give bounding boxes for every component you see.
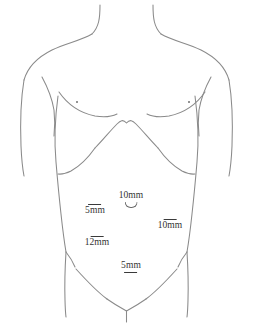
neck-line-right — [153, 5, 161, 34]
hip-line-left — [65, 252, 66, 317]
port-label-suprapubic[interactable]: 5mm — [121, 261, 141, 273]
sternum-xiphoid-line — [95, 121, 158, 148]
groin-converge-left — [107, 299, 127, 311]
port-label-suprapubic-text: 5mm — [121, 260, 141, 270]
armpit-line-right — [198, 77, 211, 136]
port-label-left-lower[interactable]: 12mm — [85, 236, 110, 248]
arm-outer-right — [229, 80, 232, 176]
shoulder-line-left — [24, 34, 92, 80]
inguinal-fold-right — [146, 269, 177, 299]
port-label-left-upper-text: 5mm — [85, 205, 105, 215]
neck-line-left — [92, 5, 100, 34]
port-marker-icon-suprapubic — [125, 272, 138, 273]
port-label-umbilical-text: 10mm — [119, 190, 144, 200]
arm-outer-left — [21, 80, 24, 176]
pectoral-fold-left — [59, 92, 117, 117]
costal-margin-left — [58, 148, 95, 174]
armpit-line-left — [42, 77, 55, 136]
port-label-right-lateral-text: 10mm — [158, 220, 183, 230]
port-label-right-lateral[interactable]: 10mm — [158, 219, 183, 231]
torso-outline-illustration — [0, 0, 253, 332]
umbilicus-icon — [125, 202, 138, 208]
port-label-left-upper[interactable]: 5mm — [85, 204, 105, 216]
groin-converge-right — [127, 299, 147, 311]
port-label-umbilical[interactable]: 10mm — [119, 191, 144, 208]
port-label-left-lower-text: 12mm — [85, 237, 110, 247]
costal-margin-right — [158, 148, 195, 174]
hip-line-right — [187, 252, 188, 317]
shoulder-line-right — [161, 34, 229, 80]
iliac-crest-branch-left — [66, 252, 75, 267]
port-placement-diagram: 10mm 5mm 10mm 12mm 5mm — [0, 0, 253, 332]
iliac-crest-branch-right — [178, 252, 187, 267]
inguinal-fold-left — [76, 269, 107, 299]
